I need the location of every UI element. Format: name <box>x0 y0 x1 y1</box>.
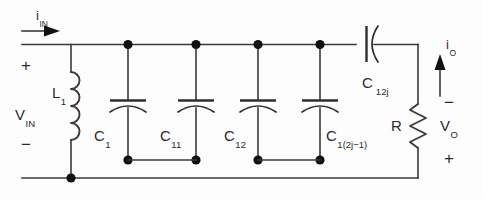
resistor-branch <box>410 45 426 179</box>
input-voltage-subscript: IN <box>26 118 36 129</box>
capacitor-2-symbol: C <box>160 127 171 144</box>
capacitor-1-symbol: C <box>94 127 105 144</box>
capacitor-1-subscript: 1 <box>105 139 110 150</box>
capacitor-3-subscript: 12 <box>235 139 246 150</box>
circuit-diagram: iIN + VIN − L1 C1 C11 C12 C1(2j−1) C12j … <box>0 0 483 199</box>
output-voltage-subscript: O <box>451 129 458 140</box>
series-capacitor <box>367 26 419 62</box>
inductor-subscript: 1 <box>61 96 66 107</box>
resistor-label: R <box>391 118 402 133</box>
output-plus-sign: + <box>444 150 454 167</box>
output-voltage-label: VO <box>440 118 457 137</box>
inductor-symbol: L <box>52 84 60 101</box>
output-voltage-symbol: V <box>440 117 450 134</box>
inductor-branch <box>66 45 79 183</box>
shunt-capacitor-2 <box>178 40 214 165</box>
junction-dot <box>123 40 132 49</box>
capacitor-2-subscript: 11 <box>171 139 181 150</box>
capacitor-3-symbol: C <box>224 127 235 144</box>
series-capacitor-symbol: C <box>362 74 373 91</box>
capacitor-4-symbol: C <box>326 127 337 144</box>
output-minus-sign: − <box>444 94 454 111</box>
series-capacitor-label: C12j <box>362 75 386 94</box>
input-voltage-symbol: V <box>15 106 25 123</box>
capacitor-4-subscript: 1(2j−1) <box>337 139 367 150</box>
shunt-capacitor-1 <box>110 40 146 165</box>
capacitor-label-3: C12 <box>224 128 245 147</box>
output-current-label: iO <box>446 38 456 54</box>
input-current-subscript: IN <box>39 19 48 29</box>
junction-dot <box>253 40 262 49</box>
circuit-schematic-canvas <box>0 0 483 199</box>
input-plus-sign: + <box>21 57 31 74</box>
output-current-subscript: O <box>449 48 456 58</box>
input-current-label: iIN <box>36 9 47 25</box>
junction-dot <box>315 40 324 49</box>
junction-dot <box>66 173 75 182</box>
capacitor-label-4: C1(2j−1) <box>326 128 367 147</box>
resistor-symbol: R <box>391 117 402 134</box>
capacitor-label-2: C11 <box>160 128 181 147</box>
junction-dot <box>191 40 200 49</box>
input-voltage-label: VIN <box>15 107 35 126</box>
output-current-arrow <box>435 54 446 96</box>
capacitor-label-1: C1 <box>94 128 110 147</box>
series-capacitor-subscript: 12j <box>376 86 389 97</box>
input-minus-sign: − <box>21 136 31 153</box>
inductor-label: L1 <box>52 85 66 104</box>
